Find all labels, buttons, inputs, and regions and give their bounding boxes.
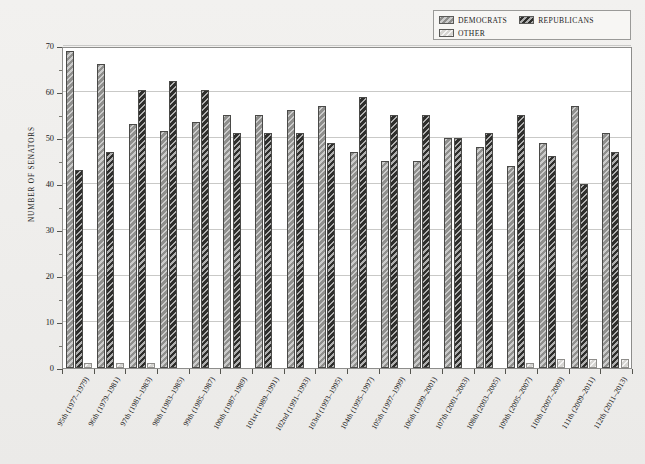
legend-swatch-democrats <box>439 16 454 24</box>
bar-democrats <box>66 51 74 368</box>
y-tick-label: 20 <box>46 271 54 282</box>
legend-row-2: OTHER <box>439 27 625 39</box>
bar-group <box>252 48 284 368</box>
bar-democrats <box>255 115 263 368</box>
bar-group <box>442 48 474 368</box>
legend-label-republicans: REPUBLICANS <box>538 16 594 25</box>
x-tick-label-text: 112th (2011–2013) <box>592 375 629 430</box>
x-tick-label-text: 103rd (1993–1995) <box>306 375 344 431</box>
y-tick-label: 0 <box>50 363 54 374</box>
bar-republicans <box>201 90 209 368</box>
x-tick-label-text: 101st (1989–1991) <box>243 375 280 430</box>
bar-group <box>316 48 348 368</box>
plot-area <box>62 47 632 369</box>
x-tick-label-text: 100th (1987–1989) <box>211 375 248 431</box>
bar-democrats <box>381 161 389 368</box>
bar-groups <box>63 48 631 368</box>
bar-group <box>410 48 442 368</box>
bar-democrats <box>318 106 326 368</box>
legend-entry-democrats: DEMOCRATS <box>439 16 507 25</box>
legend-swatch-republicans <box>519 16 534 24</box>
bar-democrats <box>476 147 484 368</box>
bar-republicans <box>169 81 177 369</box>
bar-group <box>284 48 316 368</box>
x-tick-label-text: 107th (2001–2003) <box>433 375 470 431</box>
bar-group <box>473 48 505 368</box>
bar-group <box>63 48 95 368</box>
bar-democrats <box>444 138 452 368</box>
y-tick-label: 30 <box>46 225 54 236</box>
bar-group <box>505 48 537 368</box>
x-tick-label-text: 97th (1981–1983) <box>118 375 154 428</box>
bar-democrats <box>571 106 579 368</box>
x-tick-label-text: 96th (1979–1981) <box>87 375 123 428</box>
x-tick-label-text: 110th (2007–2009) <box>528 375 565 431</box>
y-tick-label: 10 <box>46 317 54 328</box>
bar-democrats <box>97 64 105 368</box>
x-tick-label-text: 111th (2009–2011) <box>560 375 597 430</box>
legend-entry-republicans: REPUBLICANS <box>519 16 594 25</box>
bar-group <box>95 48 127 368</box>
x-tick-label-text: 108th (2003–2005) <box>465 375 502 431</box>
legend-label-democrats: DEMOCRATS <box>458 16 507 25</box>
x-tick-label-text: 104th (1995–1997) <box>338 375 375 431</box>
x-tick-label-text: 95th (1977–1979) <box>55 375 91 428</box>
chart-legend: DEMOCRATS REPUBLICANS OTHER <box>433 10 631 40</box>
bar-group <box>568 48 600 368</box>
legend-label-other: OTHER <box>458 29 485 38</box>
chart-canvas: DEMOCRATS REPUBLICANS OTHER NUMBER OF SE… <box>0 0 645 464</box>
x-tick-label-text: 109th (2005–2007) <box>496 375 533 431</box>
y-tick-label: 60 <box>46 87 54 98</box>
bar-republicans <box>138 90 146 368</box>
y-tick-label: 40 <box>46 179 54 190</box>
bar-democrats <box>350 152 358 368</box>
bar-group <box>158 48 190 368</box>
y-axis: 010203040506070 <box>0 47 62 369</box>
bar-group <box>126 48 158 368</box>
x-tick-label-text: 105th (1997–1999) <box>370 375 407 431</box>
legend-row-1: DEMOCRATS REPUBLICANS <box>439 14 625 26</box>
bar-democrats <box>602 133 610 368</box>
y-tick-label: 50 <box>46 133 54 144</box>
bar-group <box>347 48 379 368</box>
x-tick-label-text: 98th (1983–1985) <box>150 375 186 428</box>
y-tick-label: 70 <box>46 41 54 52</box>
bar-democrats <box>287 110 295 368</box>
bar-group <box>221 48 253 368</box>
legend-swatch-other <box>439 29 454 37</box>
bar-democrats <box>160 131 168 368</box>
x-tick-label-text: 99th (1985–1987) <box>182 375 218 428</box>
x-tick-mark <box>62 369 63 374</box>
x-tick-label-text: 106th (1999–2001) <box>401 375 438 431</box>
bar-democrats <box>192 122 200 368</box>
gridline <box>63 45 631 46</box>
bar-group <box>189 48 221 368</box>
bar-republicans <box>75 170 83 368</box>
bar-group <box>536 48 568 368</box>
bar-group <box>379 48 411 368</box>
bar-democrats <box>129 124 137 368</box>
x-axis: 95th (1977–1979)96th (1979–1981)97th (19… <box>62 369 632 464</box>
legend-entry-other: OTHER <box>439 29 485 38</box>
bar-democrats <box>223 115 231 368</box>
bar-group <box>600 48 632 368</box>
bar-democrats <box>539 143 547 368</box>
